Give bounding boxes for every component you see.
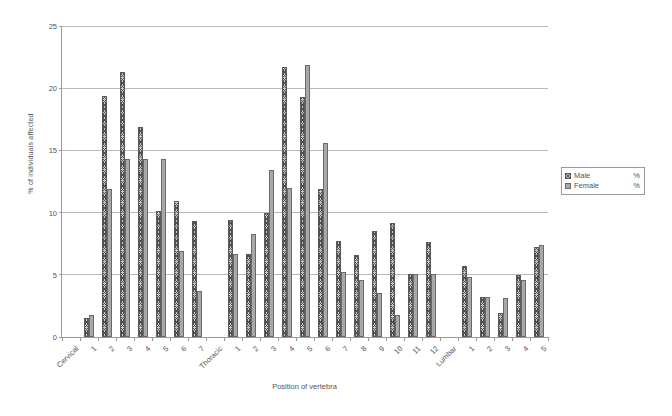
- x-axis-label-5: 5: [539, 344, 548, 353]
- bar-female-3: [125, 159, 130, 337]
- legend-unit-male: %: [627, 171, 640, 181]
- x-axis-label-5: 5: [161, 344, 170, 353]
- bar-female-12: [287, 188, 292, 337]
- legend-item-female: Female %: [565, 181, 640, 191]
- x-tick-mark-6: [170, 337, 171, 341]
- x-axis-label-1: 1: [467, 344, 476, 353]
- y-tick-label-10: 10: [49, 208, 57, 217]
- x-tick-mark-4: [134, 337, 135, 341]
- x-tick-mark-13: [296, 337, 297, 341]
- x-tick-mark-8: [206, 337, 207, 341]
- x-axis-label-1: 1: [89, 344, 98, 353]
- x-tick-mark-14: [314, 337, 315, 341]
- bar-female-24: [503, 298, 508, 337]
- chart-legend: Male % Female %: [561, 167, 645, 195]
- bar-female-9: [233, 254, 238, 337]
- x-tick-mark-25: [512, 337, 513, 341]
- plot-area: 0510152025 Cervical1234567Thoracic123456…: [61, 26, 548, 338]
- x-axis-label-11: 11: [410, 344, 422, 356]
- bar-female-22: [467, 277, 472, 337]
- bar-female-2: [107, 189, 112, 337]
- x-tick-mark-21: [440, 337, 441, 341]
- x-tick-mark-3: [116, 337, 117, 341]
- bar-female-19: [413, 274, 418, 337]
- bar-female-15: [341, 272, 346, 337]
- legend-label-female: Female: [574, 181, 627, 191]
- bar-female-13: [305, 65, 310, 337]
- x-tick-mark-20: [422, 337, 423, 341]
- legend-unit-female: %: [627, 181, 640, 191]
- legend-swatch-female-icon: [565, 183, 571, 189]
- x-tick-mark-16: [350, 337, 351, 341]
- x-tick-mark-24: [494, 337, 495, 341]
- bar-female-5: [161, 159, 166, 337]
- x-axis-label-cervical: Cervical: [55, 344, 81, 370]
- x-tick-mark-end: [548, 337, 549, 341]
- y-tick-label-20: 20: [49, 84, 57, 93]
- x-axis-label-6: 6: [323, 344, 332, 353]
- x-axis-label-10: 10: [392, 344, 404, 356]
- bar-female-18: [395, 315, 400, 337]
- y-tick-label-15: 15: [49, 146, 57, 155]
- x-tick-mark-11: [260, 337, 261, 341]
- x-axis-label-1: 1: [233, 344, 242, 353]
- x-axis-label-6: 6: [179, 344, 188, 353]
- x-axis-label-4: 4: [287, 344, 296, 353]
- bar-female-23: [485, 297, 490, 337]
- bar-female-20: [431, 274, 436, 337]
- x-tick-mark-26: [530, 337, 531, 341]
- x-tick-mark-0: [62, 337, 63, 341]
- legend-item-male: Male %: [565, 171, 640, 181]
- bar-female-16: [359, 280, 364, 337]
- x-tick-mark-15: [332, 337, 333, 341]
- x-axis-label-7: 7: [341, 344, 350, 353]
- x-axis-label-4: 4: [143, 344, 152, 353]
- bar-female-10: [251, 234, 256, 337]
- legend-label-male: Male: [574, 171, 627, 181]
- bar-female-1: [89, 315, 94, 337]
- x-axis-label-2: 2: [251, 344, 260, 353]
- bar-female-6: [179, 251, 184, 337]
- x-axis-label-3: 3: [503, 344, 512, 353]
- x-tick-mark-12: [278, 337, 279, 341]
- x-tick-mark-9: [224, 337, 225, 341]
- x-axis-label-4: 4: [521, 344, 530, 353]
- y-tick-label-25: 25: [49, 22, 57, 31]
- x-tick-mark-1: [80, 337, 81, 341]
- x-tick-mark-5: [152, 337, 153, 341]
- bar-female-7: [197, 291, 202, 337]
- x-axis-label-7: 7: [197, 344, 206, 353]
- x-axis-label-2: 2: [107, 344, 116, 353]
- x-tick-mark-17: [368, 337, 369, 341]
- x-tick-mark-2: [98, 337, 99, 341]
- x-axis-label-8: 8: [359, 344, 368, 353]
- bar-female-17: [377, 293, 382, 337]
- y-axis-title: % of individuals affected: [27, 74, 34, 234]
- x-axis-label-9: 9: [377, 344, 386, 353]
- bar-female-26: [539, 245, 544, 337]
- legend-swatch-male-icon: [565, 173, 571, 179]
- x-tick-mark-18: [386, 337, 387, 341]
- x-tick-mark-7: [188, 337, 189, 341]
- bars-layer: [62, 26, 548, 337]
- x-tick-mark-10: [242, 337, 243, 341]
- x-tick-mark-23: [476, 337, 477, 341]
- y-tick-label-5: 5: [53, 270, 57, 279]
- bar-female-11: [269, 170, 274, 337]
- x-tick-mark-19: [404, 337, 405, 341]
- vertebra-bar-chart: % of individuals affected 0510152025 Cer…: [0, 0, 672, 416]
- x-axis-title: Position of vertebra: [61, 382, 548, 391]
- x-tick-mark-22: [458, 337, 459, 341]
- bar-female-25: [521, 280, 526, 337]
- bar-female-14: [323, 143, 328, 337]
- x-axis-label-12: 12: [428, 344, 440, 356]
- bar-female-4: [143, 159, 148, 337]
- x-axis-label-5: 5: [305, 344, 314, 353]
- y-tick-label-0: 0: [53, 333, 57, 342]
- x-axis-label-3: 3: [269, 344, 278, 353]
- x-axis-label-3: 3: [125, 344, 134, 353]
- x-axis-label-2: 2: [485, 344, 494, 353]
